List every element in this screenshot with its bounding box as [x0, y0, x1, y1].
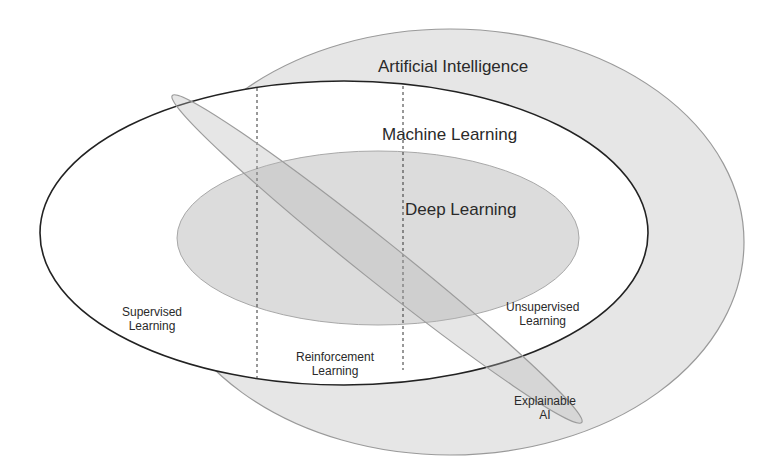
xai-line1: Explainable [514, 395, 576, 409]
reinforcement-line1: Reinforcement [296, 351, 374, 365]
supervised-line1: Supervised [122, 306, 182, 320]
unsupervised-line1: Unsupervised [506, 301, 579, 315]
supervised-learning-label: Supervised Learning [122, 306, 182, 334]
xai-line2: AI [514, 409, 576, 423]
ai-label: Artificial Intelligence [378, 57, 528, 77]
reinforcement-line2: Learning [296, 365, 374, 379]
xai-label: Explainable AI [514, 395, 576, 423]
unsupervised-line2: Learning [506, 315, 579, 329]
supervised-line2: Learning [122, 320, 182, 334]
ml-label: Machine Learning [382, 125, 517, 145]
unsupervised-learning-label: Unsupervised Learning [506, 301, 579, 329]
dl-label: Deep Learning [405, 200, 517, 220]
reinforcement-learning-label: Reinforcement Learning [296, 351, 374, 379]
